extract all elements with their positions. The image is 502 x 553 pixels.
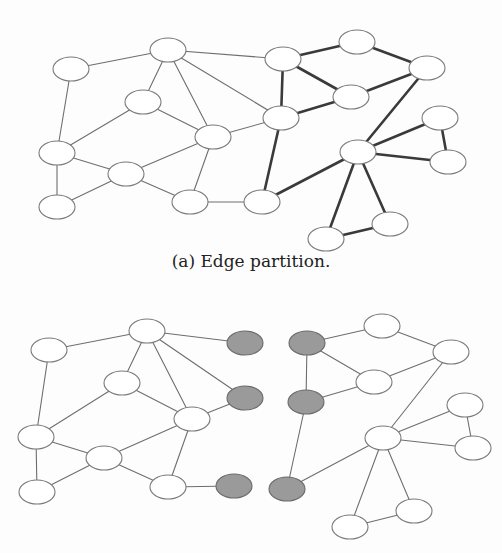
vertex-node-O2: [365, 426, 401, 450]
vertex-node-S2: [332, 515, 368, 539]
vertex-node-G: [39, 195, 75, 219]
partition-edge-M-Q: [262, 118, 281, 202]
replicated-vertex-node-g1: [227, 331, 263, 355]
edge-O2-S2: [350, 438, 383, 527]
vertex-node-D2: [174, 407, 210, 431]
vertex-node-S: [308, 227, 344, 251]
edge-B-M: [168, 50, 281, 118]
vertex-node-F: [108, 162, 144, 186]
replicated-vertex-node-g2: [227, 386, 263, 410]
vertex-node-Q: [244, 190, 280, 214]
vertex-node-C2: [104, 371, 140, 395]
vertex-node-G2: [19, 480, 55, 504]
edge-g5-g6: [287, 402, 306, 489]
vertex-node-B2: [129, 319, 165, 343]
replicated-vertex-node-g5: [288, 390, 324, 414]
nodes-b: [18, 314, 491, 539]
subfigure-b-vertex-partition: [18, 314, 491, 539]
vertex-node-M: [263, 106, 299, 130]
vertex-node-K2: [433, 340, 469, 364]
vertex-node-R2: [396, 499, 432, 523]
vertex-node-O: [340, 140, 376, 164]
edge-A-E: [57, 69, 71, 153]
vertex-node-D: [195, 125, 231, 149]
vertex-node-B: [150, 38, 186, 62]
vertex-node-A2: [31, 338, 67, 362]
replicated-vertex-node-g6: [269, 477, 305, 501]
vertex-node-N2: [447, 393, 483, 417]
replicated-vertex-node-g4: [289, 331, 325, 355]
subfigure-a-edge-partition: [39, 30, 466, 251]
vertex-node-I: [265, 47, 301, 71]
vertex-node-L2: [356, 370, 392, 394]
edge-B2-D2: [147, 331, 192, 419]
vertex-node-R: [372, 212, 408, 236]
vertex-node-H2: [150, 475, 186, 499]
replicated-vertex-node-g3: [216, 474, 252, 498]
edge-A2-E2: [36, 350, 49, 437]
vertex-node-C: [125, 90, 161, 114]
vertex-node-H: [172, 190, 208, 214]
vertex-node-A: [53, 57, 89, 81]
vertex-node-L: [333, 85, 369, 109]
caption-a: (a) Edge partition.: [0, 251, 502, 271]
vertex-node-P: [430, 150, 466, 174]
vertex-node-E2: [18, 425, 54, 449]
vertex-node-I2: [364, 314, 400, 338]
vertex-node-J: [339, 30, 375, 54]
edges-b: [36, 326, 473, 527]
vertex-node-N: [422, 106, 458, 130]
vertex-node-K: [409, 56, 445, 80]
graph-partition-figure: [0, 0, 502, 553]
vertex-node-E: [39, 141, 75, 165]
vertex-node-F2: [86, 446, 122, 470]
vertex-node-P2: [455, 436, 491, 460]
